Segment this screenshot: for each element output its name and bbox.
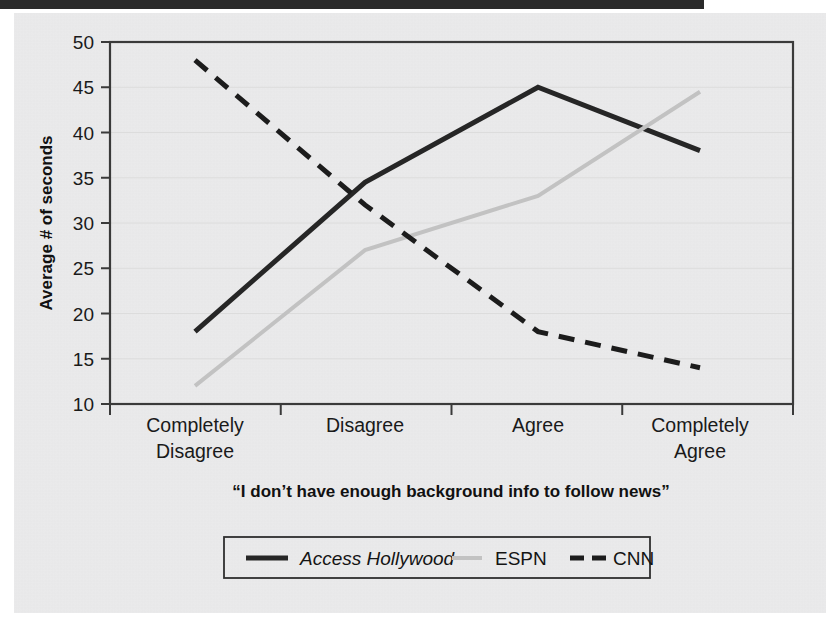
chart-legend: Access HollywoodESPNCNN [224, 537, 654, 578]
scanned-page: 101520253035404550 CompletelyDisagreeDis… [0, 0, 840, 626]
y-tick-label: 15 [73, 349, 94, 370]
y-tick-label: 10 [73, 394, 94, 415]
legend-items: Access HollywoodESPNCNN [246, 548, 654, 569]
y-tick-label: 25 [73, 258, 94, 279]
y-tick-label: 30 [73, 213, 94, 234]
y-tick-label: 40 [73, 123, 94, 144]
chart-canvas: 101520253035404550 CompletelyDisagreeDis… [0, 0, 840, 626]
x-category-label: Completely [651, 414, 749, 436]
x-axis-category-labels: CompletelyDisagreeDisagreeAgreeCompletel… [146, 414, 749, 462]
series-line [195, 60, 700, 368]
x-category-label: Agree [512, 414, 564, 436]
line-chart-figure: 101520253035404550 CompletelyDisagreeDis… [0, 0, 840, 626]
y-tick-label: 45 [73, 77, 94, 98]
series-line [195, 87, 700, 331]
y-axis-ticks [101, 42, 110, 404]
y-tick-label: 50 [73, 32, 94, 53]
legend-label: CNN [613, 548, 654, 569]
legend-label: Access Hollywood [299, 548, 456, 569]
x-category-label: Disagree [326, 414, 404, 436]
y-tick-label: 20 [73, 304, 94, 325]
x-category-label: Disagree [156, 440, 234, 462]
legend-label: ESPN [495, 548, 547, 569]
y-tick-label: 35 [73, 168, 94, 189]
y-axis-title: Average # of seconds [37, 135, 56, 310]
x-category-label: Completely [146, 414, 244, 436]
x-axis-title: “I don’t have enough background info to … [232, 482, 669, 501]
x-category-label: Agree [674, 440, 726, 462]
y-axis-tick-labels: 101520253035404550 [73, 32, 94, 415]
